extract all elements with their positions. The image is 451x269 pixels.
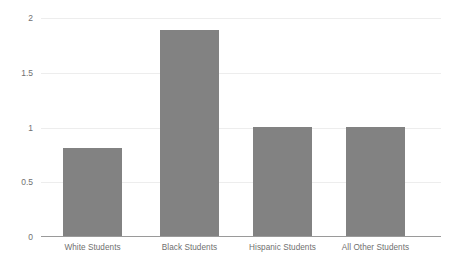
bar-all-other-students[interactable] <box>346 127 405 237</box>
bar-chart: 2 1.5 1 0.5 0 White Students Black St <box>0 0 451 269</box>
x-label-all-other-students: All Other Students <box>316 243 435 252</box>
bar-black-students[interactable] <box>160 30 219 236</box>
y-tick-label-0-5: 0.5 <box>0 177 33 187</box>
bar-hispanic-students[interactable] <box>253 127 312 237</box>
plot-area: 2 1.5 1 0.5 0 <box>41 18 441 237</box>
bars-layer <box>41 18 441 237</box>
y-tick-label-1: 1 <box>0 123 33 133</box>
y-tick-label-1-5: 1.5 <box>0 68 33 78</box>
y-tick-label-0: 0 <box>0 232 33 242</box>
x-axis-category-labels: White Students Black Students Hispanic S… <box>41 243 441 259</box>
y-tick-label-2: 2 <box>0 13 33 23</box>
bar-white-students[interactable] <box>63 148 122 236</box>
